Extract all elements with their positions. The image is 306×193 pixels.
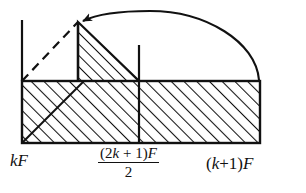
fraction-numerator-F: F bbox=[148, 145, 157, 161]
fraction-numerator-open: (2 bbox=[100, 145, 113, 161]
fraction-numerator-one: 1) bbox=[135, 145, 148, 161]
axis-label-left: kF bbox=[10, 152, 28, 169]
figure-container: kF (2k + 1)F 2 (k+1)F bbox=[0, 0, 306, 193]
hatched-rectangle bbox=[22, 81, 260, 143]
dashed-diagonal-line bbox=[22, 22, 78, 81]
fraction: (2k + 1)F 2 bbox=[98, 146, 159, 180]
right-label-plus-one: +1) bbox=[219, 154, 243, 173]
hatched-triangle bbox=[78, 22, 139, 81]
fraction-numerator: (2k + 1)F bbox=[98, 146, 159, 163]
axis-label-right: (k+1)F bbox=[206, 155, 253, 172]
fraction-denominator: 2 bbox=[98, 163, 159, 180]
right-label-F: F bbox=[243, 154, 253, 173]
axis-label-middle: (2k + 1)F 2 bbox=[98, 146, 159, 180]
fraction-numerator-plus: + bbox=[119, 145, 135, 161]
